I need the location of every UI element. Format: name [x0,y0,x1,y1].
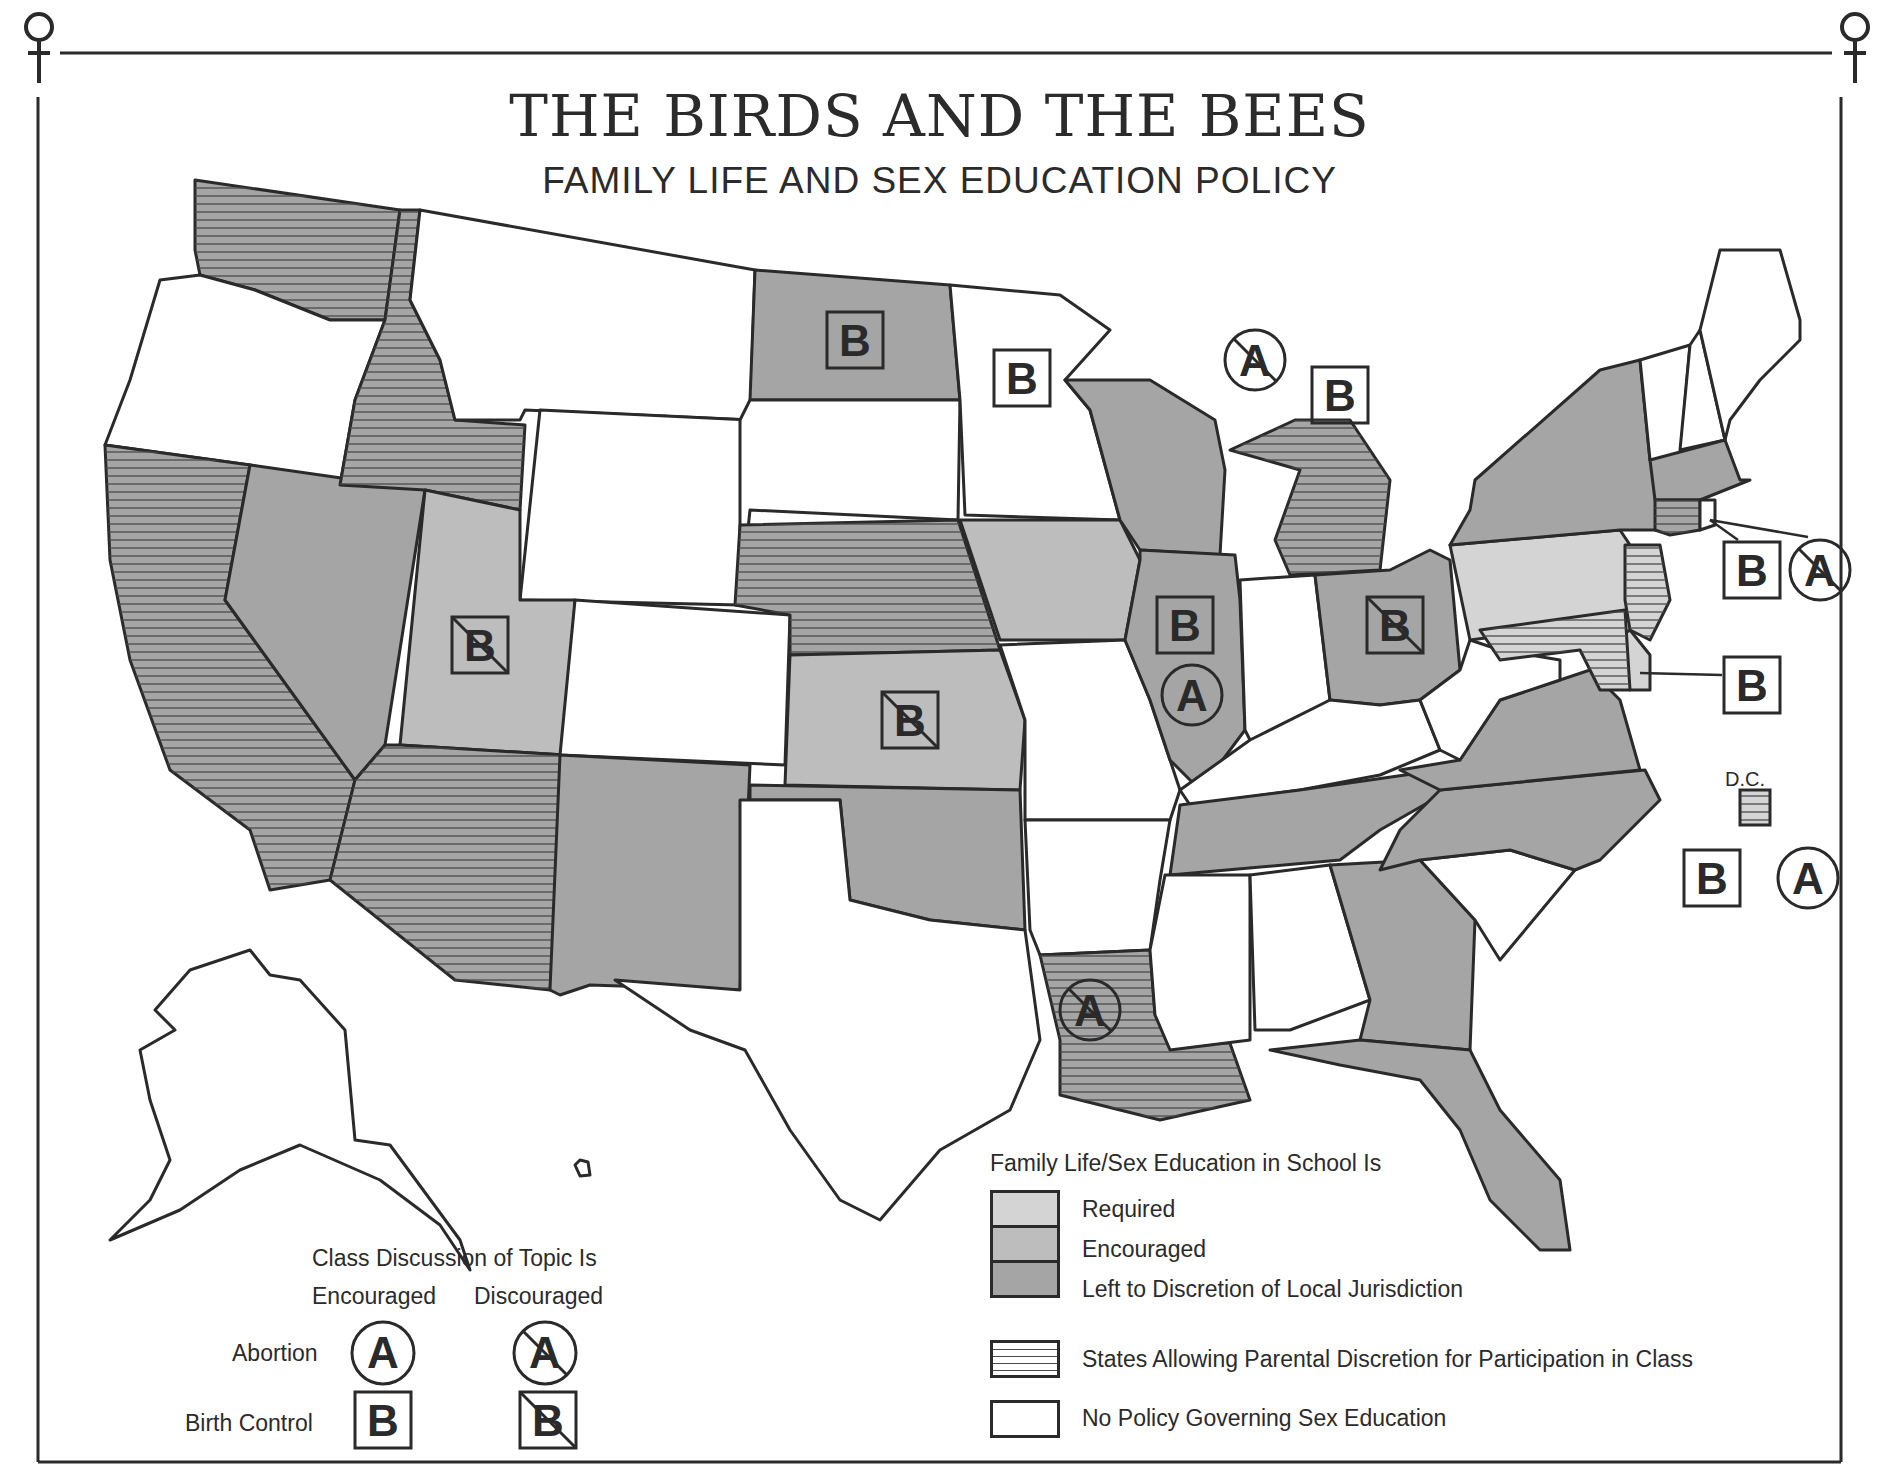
swatch-encouraged [990,1225,1060,1263]
state-wy [520,410,750,605]
us-states-map [105,180,1800,1270]
svg-text:A: A [1176,671,1208,720]
birth-control-encouraged-icon-mi: B [1312,367,1368,423]
svg-text:A: A [1792,854,1824,903]
discussion-row-abortion: Abortion [232,1340,318,1367]
state-ak [110,950,470,1270]
birth-control-encouraged-icon: B [355,1392,411,1448]
birth-control-encouraged-icon-nj: B [1724,542,1780,598]
state-ar [1025,820,1170,955]
parental-hatch-az [330,745,565,990]
abortion-encouraged-icon-dc: A [1778,848,1838,908]
abortion-discouraged-icon-mi: A [1225,330,1285,390]
discussion-legend-symbols: A A B B [340,1320,590,1460]
state-fl [1270,1040,1570,1250]
venus-symbol-icon-right [1842,14,1868,83]
svg-text:B: B [839,316,871,365]
page-title: THE BIRDS AND THE BEES [0,82,1879,150]
svg-text:A: A [367,1328,399,1377]
discussion-legend-heading: Class Discussion of Topic Is [312,1245,597,1272]
state-ny [1450,360,1670,545]
swatch-none [990,1400,1060,1438]
parental-hatch-ct [1655,500,1700,535]
svg-text:B: B [1324,371,1356,420]
state-mt [410,210,755,420]
dc-label: D.C. [1725,768,1765,790]
svg-text:B: B [1169,601,1201,650]
svg-text:B: B [367,1396,399,1445]
legend-label-encouraged: Encouraged [1082,1236,1206,1263]
legend-label-parental: States Allowing Parental Discretion for … [1082,1346,1693,1373]
birth-control-encouraged-icon-de: B [1724,657,1780,713]
state-hi [575,1160,590,1176]
state-nm [550,755,750,995]
svg-text:B: B [1736,546,1768,595]
legend-label-local: Left to Discretion of Local Jurisdiction [1082,1276,1463,1303]
svg-text:B: B [1006,354,1038,403]
svg-text:B: B [1696,854,1728,903]
dc-swatch [1740,790,1770,825]
venus-symbol-icon-left [26,14,52,83]
abortion-discouraged-icon: A [514,1322,576,1384]
policy-legend-heading: Family Life/Sex Education in School Is [990,1150,1381,1177]
svg-text:B: B [1736,661,1768,710]
state-ms [1150,875,1250,1050]
legend-label-required: Required [1082,1196,1175,1223]
discussion-col-encouraged: Encouraged [312,1283,436,1310]
map-canvas: B B B B A B A B A B B A B B A D.C. [0,0,1879,1480]
birth-control-discouraged-icon: B [520,1392,576,1448]
abortion-encouraged-icon: A [352,1322,414,1384]
swatch-parental [990,1340,1060,1378]
legend-label-none: No Policy Governing Sex Education [1082,1405,1446,1432]
page-subtitle: FAMILY LIFE AND SEX EDUCATION POLICY [0,160,1879,202]
swatch-local [990,1260,1060,1298]
discussion-row-birth-control: Birth Control [185,1410,313,1437]
birth-control-encouraged-icon-dc: B [1684,850,1740,906]
state-ri [1700,500,1715,530]
swatch-required [990,1190,1060,1228]
state-co [560,600,790,765]
discussion-col-discouraged: Discouraged [474,1283,603,1310]
